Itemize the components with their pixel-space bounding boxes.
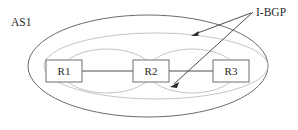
router-label-r3: R3 — [225, 65, 238, 77]
router-label-r1: R1 — [58, 65, 71, 77]
ibgp-arrowhead-upper-icon — [191, 31, 199, 36]
diagram-canvas: R1 R2 R3 AS1 I-BGP — [0, 0, 298, 130]
network-diagram: R1 R2 R3 AS1 I-BGP — [0, 0, 298, 130]
ibgp-arrowhead-lower-icon — [170, 82, 179, 88]
ibgp-label: I-BGP — [256, 6, 286, 18]
router-label-r2: R2 — [145, 65, 158, 77]
as1-label: AS1 — [11, 16, 32, 28]
ibgp-pointer-line-upper — [195, 13, 251, 34]
